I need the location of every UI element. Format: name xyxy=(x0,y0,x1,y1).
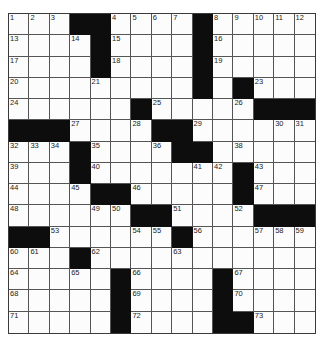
grid-cell[interactable]: 28 xyxy=(131,120,151,141)
grid-cell[interactable]: 50 xyxy=(111,205,131,226)
grid-cell[interactable] xyxy=(172,78,192,99)
grid-cell[interactable]: 23 xyxy=(254,78,274,99)
grid-cell[interactable] xyxy=(91,227,111,248)
grid-cell[interactable] xyxy=(50,78,70,99)
grid-cell[interactable]: 31 xyxy=(295,120,315,141)
grid-cell[interactable] xyxy=(213,78,233,99)
grid-cell[interactable]: 73 xyxy=(254,312,274,333)
grid-cell[interactable] xyxy=(295,57,315,78)
grid-cell[interactable] xyxy=(193,99,213,120)
grid-cell[interactable] xyxy=(29,290,49,311)
grid-cell[interactable] xyxy=(152,269,172,290)
grid-cell[interactable] xyxy=(172,99,192,120)
grid-cell[interactable] xyxy=(213,99,233,120)
grid-cell[interactable] xyxy=(274,184,294,205)
grid-cell[interactable]: 15 xyxy=(111,35,131,56)
grid-cell[interactable]: 45 xyxy=(70,184,90,205)
grid-cell[interactable] xyxy=(70,57,90,78)
grid-cell[interactable] xyxy=(131,35,151,56)
grid-cell[interactable]: 3 xyxy=(50,14,70,35)
grid-cell[interactable] xyxy=(172,269,192,290)
grid-cell[interactable] xyxy=(193,184,213,205)
grid-cell[interactable] xyxy=(29,35,49,56)
grid-cell[interactable] xyxy=(70,99,90,120)
grid-cell[interactable]: 64 xyxy=(9,269,29,290)
grid-cell[interactable] xyxy=(233,57,253,78)
grid-cell[interactable] xyxy=(29,163,49,184)
grid-cell[interactable] xyxy=(91,120,111,141)
grid-cell[interactable] xyxy=(233,227,253,248)
grid-cell[interactable] xyxy=(295,163,315,184)
grid-cell[interactable] xyxy=(152,312,172,333)
grid-cell[interactable]: 10 xyxy=(254,14,274,35)
grid-cell[interactable]: 4 xyxy=(111,14,131,35)
grid-cell[interactable] xyxy=(295,312,315,333)
grid-cell[interactable] xyxy=(50,163,70,184)
grid-cell[interactable]: 19 xyxy=(213,57,233,78)
grid-cell[interactable] xyxy=(193,248,213,269)
grid-cell[interactable] xyxy=(152,290,172,311)
grid-cell[interactable] xyxy=(213,248,233,269)
grid-cell[interactable]: 14 xyxy=(70,35,90,56)
grid-cell[interactable] xyxy=(254,248,274,269)
grid-cell[interactable]: 24 xyxy=(9,99,29,120)
grid-cell[interactable] xyxy=(295,142,315,163)
grid-cell[interactable] xyxy=(152,184,172,205)
grid-cell[interactable]: 72 xyxy=(131,312,151,333)
grid-cell[interactable]: 51 xyxy=(172,205,192,226)
grid-cell[interactable] xyxy=(254,57,274,78)
grid-cell[interactable] xyxy=(274,78,294,99)
grid-cell[interactable]: 1 xyxy=(9,14,29,35)
grid-cell[interactable] xyxy=(295,290,315,311)
grid-cell[interactable]: 59 xyxy=(295,227,315,248)
grid-cell[interactable]: 47 xyxy=(254,184,274,205)
grid-cell[interactable]: 5 xyxy=(131,14,151,35)
grid-cell[interactable] xyxy=(91,99,111,120)
grid-cell[interactable]: 30 xyxy=(274,120,294,141)
grid-cell[interactable] xyxy=(172,290,192,311)
grid-cell[interactable] xyxy=(233,248,253,269)
grid-cell[interactable]: 68 xyxy=(9,290,29,311)
grid-cell[interactable]: 16 xyxy=(213,35,233,56)
grid-cell[interactable]: 9 xyxy=(233,14,253,35)
grid-cell[interactable] xyxy=(254,290,274,311)
grid-cell[interactable] xyxy=(50,35,70,56)
grid-cell[interactable]: 21 xyxy=(91,78,111,99)
grid-cell[interactable]: 43 xyxy=(254,163,274,184)
grid-cell[interactable] xyxy=(172,35,192,56)
grid-cell[interactable]: 52 xyxy=(233,205,253,226)
grid-cell[interactable] xyxy=(152,35,172,56)
grid-cell[interactable] xyxy=(295,184,315,205)
grid-cell[interactable] xyxy=(111,248,131,269)
grid-cell[interactable]: 54 xyxy=(131,227,151,248)
grid-cell[interactable] xyxy=(172,57,192,78)
grid-cell[interactable] xyxy=(29,99,49,120)
grid-cell[interactable] xyxy=(152,78,172,99)
grid-cell[interactable]: 7 xyxy=(172,14,192,35)
grid-cell[interactable] xyxy=(295,35,315,56)
grid-cell[interactable] xyxy=(172,163,192,184)
grid-cell[interactable]: 44 xyxy=(9,184,29,205)
grid-cell[interactable] xyxy=(50,57,70,78)
grid-cell[interactable]: 71 xyxy=(9,312,29,333)
grid-cell[interactable] xyxy=(274,312,294,333)
grid-cell[interactable]: 63 xyxy=(172,248,192,269)
grid-cell[interactable] xyxy=(50,205,70,226)
grid-cell[interactable]: 29 xyxy=(193,120,213,141)
grid-cell[interactable]: 2 xyxy=(29,14,49,35)
grid-cell[interactable]: 67 xyxy=(233,269,253,290)
grid-cell[interactable] xyxy=(111,142,131,163)
grid-cell[interactable] xyxy=(274,57,294,78)
grid-cell[interactable] xyxy=(274,35,294,56)
grid-cell[interactable]: 53 xyxy=(50,227,70,248)
grid-cell[interactable] xyxy=(172,312,192,333)
grid-cell[interactable] xyxy=(274,142,294,163)
grid-cell[interactable] xyxy=(254,269,274,290)
grid-cell[interactable]: 34 xyxy=(50,142,70,163)
grid-cell[interactable]: 48 xyxy=(9,205,29,226)
grid-cell[interactable] xyxy=(172,184,192,205)
grid-cell[interactable] xyxy=(29,205,49,226)
grid-cell[interactable] xyxy=(274,269,294,290)
grid-cell[interactable] xyxy=(70,78,90,99)
grid-cell[interactable] xyxy=(233,35,253,56)
